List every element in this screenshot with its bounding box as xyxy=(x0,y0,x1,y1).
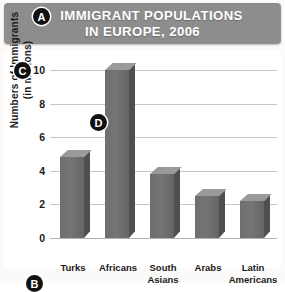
bar-face-side xyxy=(174,168,180,238)
x-axis-tick-label: LatinAmericans xyxy=(224,262,282,285)
y-axis-tick-label: 10 xyxy=(33,64,45,76)
gridline-8: 8 xyxy=(50,104,277,105)
x-axis-tick-label-line: South xyxy=(150,262,177,273)
bar-face-side xyxy=(219,189,225,238)
bar-face-front xyxy=(240,201,264,238)
y-axis-tick-label: 0 xyxy=(39,232,45,244)
y-axis-tick-label: 2 xyxy=(39,198,45,210)
gridline-0: 0 xyxy=(50,238,277,239)
plot-region: 0246810TurksAfricansSouthAsiansArabsLati… xyxy=(50,70,277,238)
y-axis-tick-label: 6 xyxy=(39,131,45,143)
x-axis-tick-label-line: Latin xyxy=(242,262,265,273)
marker-badge-a: A xyxy=(33,8,50,25)
marker-badge-c: C xyxy=(14,62,31,79)
gridline-6: 6 xyxy=(50,137,277,138)
x-axis-tick-label-line: Africans xyxy=(99,262,137,273)
bar-arabs xyxy=(195,196,219,238)
x-axis-tick-label-line: Turks xyxy=(60,262,85,273)
x-axis-tick-label-line: Arabs xyxy=(195,262,222,273)
bar-turks xyxy=(60,157,84,238)
title-line-1: IMMIGRANT POPULATIONS xyxy=(42,8,243,24)
bar-face-side xyxy=(264,194,270,238)
bar-face-front xyxy=(195,196,219,238)
bar-south-asians xyxy=(150,174,174,238)
bar-latin-americans xyxy=(240,201,264,238)
chart-area: Numbers of Immigrants (in millions) 0246… xyxy=(4,50,281,268)
bar-face-front xyxy=(105,70,129,238)
marker-badge-b: B xyxy=(26,275,43,292)
title-line-2: IN EUROPE, 2006 xyxy=(85,24,200,40)
x-axis-tick-label-line: Americans xyxy=(229,274,278,285)
x-axis-tick-label-line: Asians xyxy=(147,274,178,285)
bar-face-side xyxy=(129,63,135,238)
bar-face-front xyxy=(150,174,174,238)
bar-face-front xyxy=(60,157,84,238)
gridline-10: 10 xyxy=(50,70,277,71)
bar-face-side xyxy=(84,151,90,238)
bar-africans xyxy=(105,70,129,238)
y-axis-tick-label: 8 xyxy=(39,98,45,110)
marker-badge-d: D xyxy=(90,114,107,131)
y-axis-tick-label: 4 xyxy=(39,165,45,177)
